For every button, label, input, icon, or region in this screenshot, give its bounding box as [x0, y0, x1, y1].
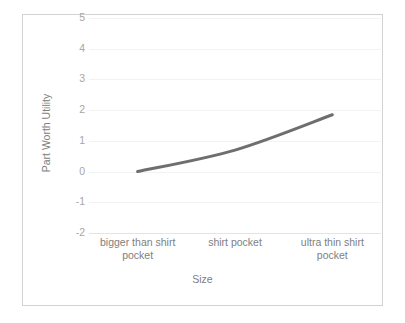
series-path [138, 115, 333, 172]
chart-frame: Part Worth Utility 543210-1-2 bigger tha… [22, 14, 383, 306]
gridline [89, 233, 381, 234]
y-axis-tick-label: 5 [59, 12, 85, 23]
y-axis-tick-label: 0 [59, 166, 85, 177]
plot-area [89, 18, 381, 233]
x-axis-title: Size [23, 273, 382, 285]
y-axis-tick-label: -2 [59, 227, 85, 238]
series-line-part-worth-utility [89, 18, 381, 233]
y-axis-tick-label: 2 [59, 104, 85, 115]
x-axis-tick-label: ultra thin shirt pocket [284, 236, 381, 262]
x-axis-tick-label: bigger than shirt pocket [89, 236, 186, 262]
y-axis-tick-label: 3 [59, 73, 85, 84]
y-axis-tick-label: -1 [59, 196, 85, 207]
chart-figure: Part Worth Utility 543210-1-2 bigger tha… [0, 0, 405, 323]
x-axis-tick-label: shirt pocket [186, 236, 283, 262]
y-axis-tick-label: 1 [59, 135, 85, 146]
y-axis-tick-label: 4 [59, 43, 85, 54]
x-axis-tick-labels: bigger than shirt pocketshirt pocketultr… [89, 236, 381, 262]
y-axis-title: Part Worth Utility [40, 58, 52, 208]
